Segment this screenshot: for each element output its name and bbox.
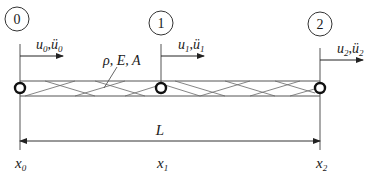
bar-hatching	[25, 81, 318, 96]
x2-label: x2	[315, 155, 328, 173]
bar-body	[20, 81, 320, 96]
bar-element-diagram: 0 1 2 u0,ü0 u1,ü1 u2,ü2 ρ, E, A L x0 x1 …	[0, 0, 378, 179]
node-2-pin-icon	[315, 83, 325, 93]
length-dimension: L	[20, 122, 320, 141]
node-1-dof-label: u1,ü1	[178, 37, 205, 54]
displacement-arrows	[20, 56, 363, 60]
reference-lines	[20, 44, 320, 150]
properties-label: ρ, E, A	[102, 53, 141, 68]
length-label: L	[155, 122, 164, 138]
node-0-dof-label: u0,ü0	[36, 37, 63, 54]
node-labels: 0 1 2	[5, 7, 332, 36]
x0-label: x0	[14, 155, 27, 173]
node-1-pin-icon	[156, 83, 166, 93]
node-1-number: 1	[158, 16, 165, 31]
node-2-number: 2	[317, 17, 324, 32]
node-0-pin-icon	[15, 83, 25, 93]
node-0-number: 0	[14, 12, 21, 27]
node-pins	[15, 83, 325, 93]
displacement-labels: u0,ü0 u1,ü1 u2,ü2	[36, 37, 364, 58]
node-2-dof-label: u2,ü2	[337, 41, 364, 58]
x1-label: x1	[156, 155, 168, 173]
position-labels: x0 x1 x2	[14, 155, 328, 173]
properties-leader-line	[104, 67, 117, 88]
material-properties: ρ, E, A	[102, 53, 141, 88]
